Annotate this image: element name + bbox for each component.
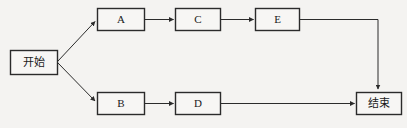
node-box-b[interactable] (98, 93, 145, 115)
node-box-c[interactable] (176, 9, 221, 31)
node-box-a[interactable] (98, 9, 145, 31)
node-box-start[interactable] (11, 51, 58, 75)
node-box-e[interactable] (256, 9, 300, 31)
node-box-d[interactable] (176, 93, 221, 115)
flowchart-canvas: 开始 A C E B D 结束 (0, 0, 407, 128)
node-box-end[interactable] (357, 93, 402, 115)
flowchart-graphics (0, 0, 407, 128)
edge-start-to-b (58, 63, 95, 101)
edge-start-to-a (58, 22, 95, 62)
edge-e-to-end (300, 20, 378, 90)
